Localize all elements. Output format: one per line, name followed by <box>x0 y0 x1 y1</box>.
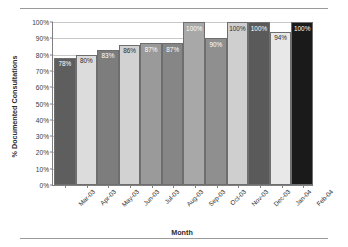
bar[interactable]: 94% <box>270 32 292 185</box>
bar-slot: 80% <box>76 22 98 185</box>
bar-value-label: 86% <box>123 46 136 55</box>
y-tick-mark <box>50 87 53 88</box>
bar-value-label: 78% <box>58 59 71 68</box>
bar-value-label: 87% <box>145 44 158 53</box>
bar-value-label: 100% <box>229 23 245 32</box>
y-tick-mark <box>50 136 53 137</box>
x-tick-label: Dec-03 <box>272 188 292 208</box>
bar[interactable]: 100% <box>183 22 205 185</box>
y-tick-label: 50% <box>36 100 49 107</box>
y-tick-label: 70% <box>36 67 49 74</box>
x-tick-label: Sep-03 <box>207 188 227 208</box>
y-tick-mark <box>50 70 53 71</box>
x-tick-label: Jun-03 <box>142 188 161 207</box>
x-tick-label: Mar-03 <box>77 188 96 207</box>
bar-slot: 87% <box>162 22 184 185</box>
bar[interactable]: 100% <box>248 22 270 185</box>
bar-value-label: 100% <box>186 23 202 32</box>
y-tick-label: 0% <box>39 182 49 189</box>
chart-figure: % Documented Consultations 0%10%20%30%40… <box>0 0 348 247</box>
top-divider-rule <box>20 8 328 9</box>
bar-value-label: 100% <box>251 23 267 32</box>
bar-slot: 100% <box>227 22 249 185</box>
bar-slot: 86% <box>119 22 141 185</box>
y-tick-label: 20% <box>36 149 49 156</box>
bar[interactable]: 87% <box>162 43 184 185</box>
bottom-divider-rule <box>20 238 328 239</box>
x-tick-label: Jul-03 <box>163 188 180 205</box>
bar[interactable]: 80% <box>76 55 98 185</box>
y-tick-mark <box>50 103 53 104</box>
bar-slot: 100% <box>183 22 205 185</box>
bar-value-label: 80% <box>80 56 93 65</box>
bar-value-label: 100% <box>294 23 310 32</box>
y-axis-title: % Documented Consultations <box>10 27 19 187</box>
y-tick-label: 90% <box>36 35 49 42</box>
bar[interactable]: 87% <box>140 43 162 185</box>
bar-slot: 83% <box>97 22 119 185</box>
x-tick-label: Aug-03 <box>185 188 205 208</box>
bar[interactable]: 86% <box>119 45 141 185</box>
bar-slot: 87% <box>140 22 162 185</box>
y-tick-label: 100% <box>32 19 49 26</box>
x-tick-label: Apr-03 <box>98 188 117 207</box>
bar-slot: 100% <box>291 22 313 185</box>
bar-value-label: 83% <box>102 51 115 60</box>
y-tick-label: 30% <box>36 133 49 140</box>
bar-slot: 90% <box>205 22 227 185</box>
y-tick-mark <box>50 119 53 120</box>
y-tick-mark <box>50 152 53 153</box>
plot-area: 0%10%20%30%40%50%60%70%80%90%100% 78%80%… <box>52 22 313 186</box>
x-tick-label: Jan-04 <box>293 188 312 207</box>
y-tick-label: 10% <box>36 165 49 172</box>
x-axis-tick-labels: Mar-03Apr-03May-03Jun-03Jul-03Aug-03Sep-… <box>52 188 312 228</box>
x-tick-label: Feb-04 <box>315 188 334 207</box>
y-tick-mark <box>50 38 53 39</box>
y-tick-label: 80% <box>36 51 49 58</box>
bar-slot: 94% <box>270 22 292 185</box>
bar-value-label: 94% <box>274 33 287 42</box>
bar[interactable]: 83% <box>97 50 119 185</box>
y-tick-label: 60% <box>36 84 49 91</box>
y-tick-mark <box>50 185 53 186</box>
y-tick-mark <box>50 168 53 169</box>
x-tick-label: Nov-03 <box>250 188 270 208</box>
x-axis-title: Month <box>52 228 312 237</box>
bar[interactable]: 100% <box>227 22 249 185</box>
x-tick-label: Oct-03 <box>228 188 247 207</box>
x-tick-label: May-03 <box>120 188 140 208</box>
bar[interactable]: 90% <box>205 38 227 185</box>
y-tick-mark <box>50 22 53 23</box>
bar-series: 78%80%83%86%87%87%100%90%100%100%94%100% <box>54 22 313 185</box>
y-tick-label: 40% <box>36 116 49 123</box>
bar-slot: 100% <box>248 22 270 185</box>
y-tick-mark <box>50 54 53 55</box>
bar-slot: 78% <box>54 22 76 185</box>
bar-value-label: 90% <box>209 39 222 48</box>
bar[interactable]: 100% <box>291 22 313 185</box>
bar-value-label: 87% <box>166 44 179 53</box>
bar[interactable]: 78% <box>54 58 76 185</box>
